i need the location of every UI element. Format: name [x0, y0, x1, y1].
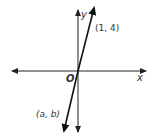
y-axis-label: y: [80, 9, 88, 20]
x-axis-label: x: [136, 72, 143, 83]
origin-label: O: [66, 73, 75, 84]
point-label-a-b: (a, b): [36, 109, 60, 119]
coordinate-plane: y x O (1, 4) (a, b): [0, 0, 157, 139]
point-label-1-4: (1, 4): [95, 23, 119, 33]
